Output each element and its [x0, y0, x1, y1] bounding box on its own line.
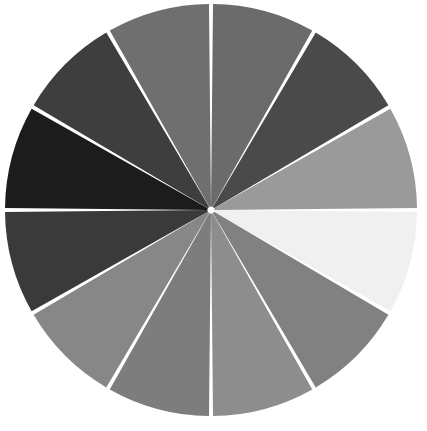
grayscale-pie-wheel [0, 0, 427, 431]
pie-chart-canvas [0, 0, 427, 431]
